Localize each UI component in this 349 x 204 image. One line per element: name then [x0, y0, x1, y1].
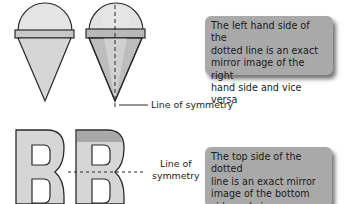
- callout-horizontal-symmetry: The top side of the dotted line is an ex…: [205, 147, 332, 204]
- label-line-of-symmetry-bottom: Line of symmetry: [152, 158, 200, 182]
- ice-cream-cone-plain: [15, 3, 74, 101]
- callout-vertical-symmetry: The left hand side of the dotted line is…: [205, 16, 333, 75]
- letter-b-plain: [16, 130, 64, 204]
- ice-cream-cone-symmetric: [86, 3, 148, 107]
- letter-b-symmetric: [68, 130, 146, 204]
- label-line-of-symmetry-top: Line of symmetry: [151, 99, 233, 111]
